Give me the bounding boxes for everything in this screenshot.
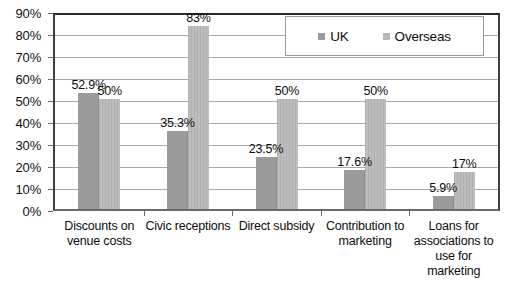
y-tick-label: 30%: [16, 138, 41, 153]
data-label: 17.6%: [337, 155, 371, 169]
bar-overseas: [365, 99, 386, 209]
bar-uk: [433, 196, 454, 209]
y-axis: 0%10%20%30%40%50%60%70%80%90%: [0, 0, 47, 289]
y-tick-label: 20%: [16, 160, 41, 175]
legend-entry-overseas: Overseas: [383, 29, 451, 44]
overseas-swatch-icon: [383, 33, 390, 40]
y-tick-label: 80%: [16, 28, 41, 43]
x-tick-mark: [409, 211, 410, 216]
x-category-label: Contribution tomarketing: [315, 219, 416, 249]
y-tick-label: 50%: [16, 94, 41, 109]
legend-label-uk: UK: [330, 29, 348, 44]
y-tick-label: 10%: [16, 182, 41, 197]
bar-uk: [344, 170, 365, 209]
gridline: [55, 79, 498, 80]
data-label: 50%: [275, 84, 299, 98]
x-tick-mark: [232, 211, 233, 216]
legend-entry-uk: UK: [318, 29, 348, 44]
bar-chart: 0%10%20%30%40%50%60%70%80%90% Discounts …: [0, 0, 519, 289]
data-label: 50%: [363, 84, 387, 98]
gridline: [55, 57, 498, 58]
uk-swatch-icon: [318, 33, 325, 40]
x-tick-mark: [321, 211, 322, 216]
y-tick-label: 60%: [16, 72, 41, 87]
data-label: 35.3%: [160, 116, 194, 130]
data-label: 83%: [186, 11, 210, 25]
bar-overseas: [99, 99, 120, 209]
y-tick-label: 0%: [23, 204, 41, 219]
bar-uk: [256, 157, 277, 209]
data-label: 23.5%: [249, 142, 283, 156]
y-tick-label: 90%: [16, 6, 41, 21]
y-tick-mark: [48, 211, 53, 212]
bar-uk: [167, 131, 188, 209]
bar-uk: [78, 93, 99, 209]
data-label: 50%: [98, 84, 122, 98]
data-label: 17%: [452, 157, 476, 171]
legend-label-overseas: Overseas: [395, 29, 451, 44]
y-tick-label: 40%: [16, 116, 41, 131]
x-tick-mark: [144, 211, 145, 216]
y-tick-label: 70%: [16, 50, 41, 65]
chart-legend: UK Overseas: [285, 16, 484, 56]
x-category-label: Loans forassociations touse formarketing: [403, 219, 504, 279]
data-label: 5.9%: [429, 181, 457, 195]
x-category-label: Direct subsidy: [226, 219, 327, 234]
x-category-label: Discounts onvenue costs: [49, 219, 150, 249]
x-category-label: Civic receptions: [138, 219, 239, 234]
